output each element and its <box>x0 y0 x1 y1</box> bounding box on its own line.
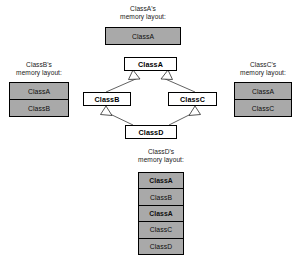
memory-row: ClassA <box>106 28 180 44</box>
memory-row: ClassA <box>139 206 183 222</box>
diagram-canvas: ClassA's memory layout: ClassA ClassB's … <box>0 0 301 265</box>
arrowhead-classD-to-classB <box>101 106 113 116</box>
caption-line-1: ClassC's <box>228 61 298 69</box>
edge-classB-to-classA <box>106 78 138 92</box>
classC-layout-caption: ClassC's memory layout: <box>228 61 298 78</box>
caption-line-2: memory layout: <box>106 13 180 21</box>
memory-row: ClassB <box>139 189 183 205</box>
edge-classD-to-classB <box>110 114 133 125</box>
classB-layout-caption: ClassB's memory layout: <box>4 61 74 78</box>
caption-line-1: ClassD's <box>126 148 196 156</box>
caption-line-2: memory layout: <box>126 156 196 164</box>
classB-memory-block: ClassA ClassB <box>9 82 69 117</box>
memory-row: ClassA <box>235 83 291 100</box>
class-node-classA[interactable]: ClassA <box>124 57 177 71</box>
edge-classC-to-classA <box>163 78 195 92</box>
arrowhead-classD-to-classC <box>189 106 201 116</box>
class-node-classB[interactable]: ClassB <box>83 92 131 106</box>
memory-row: ClassA <box>139 173 183 189</box>
classC-memory-block: ClassA ClassC <box>234 82 292 117</box>
caption-line-2: memory layout: <box>228 69 298 77</box>
memory-row: ClassB <box>10 100 68 116</box>
caption-line-2: memory layout: <box>4 69 74 77</box>
caption-line-1: ClassA's <box>106 5 180 13</box>
caption-line-1: ClassB's <box>4 61 74 69</box>
class-node-classD[interactable]: ClassD <box>125 125 177 139</box>
memory-row: ClassD <box>139 239 183 254</box>
memory-row: ClassC <box>139 222 183 238</box>
edge-classD-to-classC <box>169 114 191 125</box>
classD-memory-block: ClassA ClassB ClassA ClassC ClassD <box>138 172 184 255</box>
memory-row: ClassA <box>10 83 68 100</box>
arrowhead-classB-to-classA <box>129 70 141 80</box>
classD-layout-caption: ClassD's memory layout: <box>126 148 196 165</box>
classA-layout-caption: ClassA's memory layout: <box>106 5 180 22</box>
arrowhead-classC-to-classA <box>161 70 173 80</box>
class-node-classC[interactable]: ClassC <box>168 92 217 106</box>
classA-memory-block: ClassA <box>105 27 181 45</box>
memory-row: ClassC <box>235 100 291 116</box>
